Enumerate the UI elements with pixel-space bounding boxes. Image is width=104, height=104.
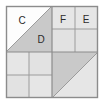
- patch-tr-4: [75, 29, 98, 52]
- patch-label-c: C: [18, 15, 25, 26]
- patch-label-e: E: [83, 14, 90, 25]
- patch-bl-1: [6, 52, 29, 75]
- patch-bl-3: [6, 75, 29, 98]
- quadrant-top-left: [6, 6, 52, 52]
- patch-bl-2: [29, 52, 52, 75]
- patch-tr-3: [52, 29, 75, 52]
- quilt-block-svg: C D F E: [0, 0, 104, 104]
- patch-label-d: D: [37, 34, 44, 45]
- patch-label-f: F: [60, 14, 66, 25]
- quilt-block-diagram: C D F E: [0, 0, 104, 104]
- quadrant-top-right: [52, 6, 98, 52]
- quadrant-bottom-left: [6, 52, 52, 98]
- quadrant-bottom-right: [52, 52, 98, 98]
- patch-bl-4: [29, 75, 52, 98]
